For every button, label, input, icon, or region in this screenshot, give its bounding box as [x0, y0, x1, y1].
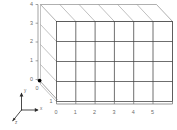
x-tick-label-0: 0	[55, 110, 58, 115]
y-tick-label-3: 3	[30, 21, 33, 26]
y-tick-label-1: 1	[30, 58, 33, 63]
y-tick-label-0: 0	[30, 77, 33, 82]
bottom-left-depth-edge	[41, 85, 57, 102]
front-face-grid	[57, 22, 173, 102]
triad-y-arrowhead	[20, 93, 24, 97]
axis-triad-group	[12, 93, 38, 122]
figure-canvas: 4 3 2 1 0 0 1 0 1 2 3 4 5 y x z	[0, 0, 177, 130]
y-tick-label-2: 2	[30, 39, 33, 44]
origin-dot	[38, 79, 42, 83]
y-axis-group	[36, 5, 38, 80]
z-tick-label-0: 0	[36, 86, 39, 91]
top-right-edge	[157, 5, 173, 22]
triad-z-label: z	[15, 121, 17, 126]
x-tick-label-3: 3	[112, 110, 115, 115]
top-left-edge	[41, 5, 57, 22]
z-tick-label-1: 1	[50, 99, 53, 104]
triad-y-label: y	[24, 89, 26, 94]
x-tick-label-4: 4	[132, 110, 135, 115]
y-tick-label-4: 4	[30, 2, 33, 7]
x-tick-label-2: 2	[93, 110, 96, 115]
triad-x-label: x	[40, 107, 42, 112]
x-tick-label-5: 5	[151, 110, 154, 115]
mesh-plot-area: 4 3 2 1 0 0 1 0 1 2 3 4 5 y x z	[0, 0, 177, 130]
x-tick-label-1: 1	[74, 110, 77, 115]
triad-x-arrowhead	[35, 108, 39, 112]
z-axis-group	[40, 81, 58, 101]
z-axis-line	[40, 81, 58, 101]
top-face-column-lines	[60, 5, 153, 22]
